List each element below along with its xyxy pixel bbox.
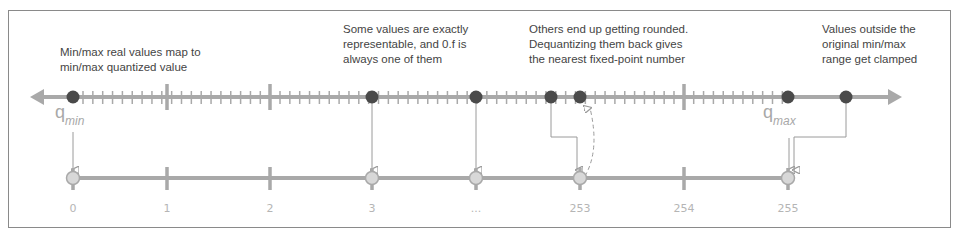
tick-label-254: 254 [674,202,695,215]
right-arrow-icon [888,89,902,105]
quantized-number-line [67,167,795,190]
tick-label-1: 1 [164,202,171,215]
real-number-line [30,84,902,110]
tick-label-253: 253 [570,202,591,215]
tick-label-255: 255 [778,202,799,215]
tick-label-ellipsis: ... [471,202,482,215]
tick-label-2: 2 [267,202,274,215]
mapping-arrows [73,100,846,176]
left-arrow-icon [30,89,44,105]
tick-label-0: 0 [70,202,77,215]
tick-label-3: 3 [369,202,376,215]
